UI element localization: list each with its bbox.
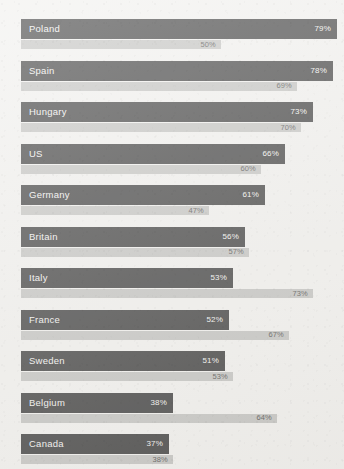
secondary-value-label: 53% <box>212 373 228 381</box>
secondary-bar[interactable]: 50% <box>21 40 221 49</box>
secondary-value-label: 64% <box>256 414 272 422</box>
primary-value-label: 66% <box>262 150 279 158</box>
category-label: France <box>29 315 60 325</box>
secondary-value-label: 69% <box>276 82 292 90</box>
primary-bar[interactable]: Italy53% <box>21 268 233 288</box>
secondary-bar[interactable]: 53% <box>21 372 233 381</box>
secondary-value-label: 70% <box>280 124 296 132</box>
secondary-bar[interactable]: 70% <box>21 123 301 132</box>
secondary-bar[interactable]: 38% <box>21 455 173 464</box>
secondary-bar[interactable]: 64% <box>21 414 277 423</box>
primary-bar[interactable]: Britain56% <box>21 227 245 247</box>
bar-group: Hungary73%70% <box>21 102 333 132</box>
bar-group: Sweden51%53% <box>21 351 333 381</box>
secondary-bar[interactable]: 47% <box>21 206 209 215</box>
primary-value-label: 79% <box>314 25 331 33</box>
secondary-value-label: 38% <box>152 456 168 464</box>
secondary-value-label: 73% <box>292 290 308 298</box>
category-label: Britain <box>29 232 58 242</box>
primary-value-label: 56% <box>222 233 239 241</box>
category-label: US <box>29 149 43 159</box>
primary-bar[interactable]: Hungary73% <box>21 102 313 122</box>
category-label: Spain <box>29 66 55 76</box>
secondary-bar[interactable]: 73% <box>21 289 313 298</box>
bar-group: US66%60% <box>21 144 333 174</box>
primary-bar[interactable]: US66% <box>21 144 285 164</box>
primary-bar[interactable]: Spain78% <box>21 61 333 81</box>
bar-group: France52%67% <box>21 310 333 340</box>
category-label: Canada <box>29 439 64 449</box>
primary-bar[interactable]: Germany61% <box>21 185 265 205</box>
bar-group: Britain56%57% <box>21 227 333 257</box>
primary-bar[interactable]: Belgium38% <box>21 393 173 413</box>
primary-bar[interactable]: Canada37% <box>21 434 169 454</box>
primary-value-label: 61% <box>242 191 259 199</box>
primary-value-label: 73% <box>290 108 307 116</box>
category-label: Italy <box>29 273 48 283</box>
primary-bar[interactable]: Sweden51% <box>21 351 225 371</box>
secondary-value-label: 50% <box>200 41 216 49</box>
secondary-value-label: 47% <box>188 207 204 215</box>
bar-group: Belgium38%64% <box>21 393 333 423</box>
bar-group: Italy53%73% <box>21 268 333 298</box>
bar-group: Canada37%38% <box>21 434 333 464</box>
primary-value-label: 53% <box>210 274 227 282</box>
secondary-value-label: 67% <box>268 331 284 339</box>
category-label: Belgium <box>29 398 65 408</box>
category-label: Sweden <box>29 356 65 366</box>
primary-bar[interactable]: Poland79% <box>21 19 337 39</box>
secondary-value-label: 60% <box>240 165 256 173</box>
secondary-bar[interactable]: 67% <box>21 331 289 340</box>
secondary-bar[interactable]: 60% <box>21 165 261 174</box>
primary-value-label: 38% <box>150 399 167 407</box>
primary-bar[interactable]: France52% <box>21 310 229 330</box>
bar-group: Poland79%50% <box>21 19 333 49</box>
secondary-bar[interactable]: 69% <box>21 82 297 91</box>
primary-value-label: 51% <box>202 357 219 365</box>
secondary-value-label: 57% <box>228 248 244 256</box>
bar-chart: Poland79%50%Spain78%69%Hungary73%70%US66… <box>0 0 344 469</box>
category-label: Hungary <box>29 107 67 117</box>
category-label: Germany <box>29 190 70 200</box>
bar-group: Germany61%47% <box>21 185 333 215</box>
bar-group: Spain78%69% <box>21 61 333 91</box>
primary-value-label: 78% <box>310 67 327 75</box>
primary-value-label: 52% <box>206 316 223 324</box>
primary-value-label: 37% <box>146 440 163 448</box>
category-label: Poland <box>29 24 60 34</box>
secondary-bar[interactable]: 57% <box>21 248 249 257</box>
